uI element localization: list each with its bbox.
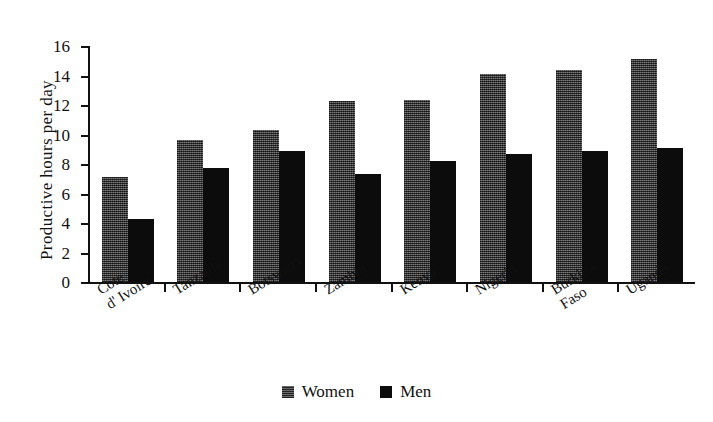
y-tick: 4	[81, 223, 89, 225]
y-tick-label: 2	[62, 244, 71, 261]
y-tick-label: 12	[53, 97, 70, 114]
y-tick-label: 10	[53, 126, 70, 143]
bar-women	[329, 101, 355, 282]
y-tick: 14	[81, 76, 89, 78]
legend-label: Women	[302, 382, 354, 402]
y-tick: 8	[81, 164, 89, 166]
y-tick: 16	[81, 46, 89, 48]
bar-group	[556, 46, 608, 282]
bar-group	[253, 46, 305, 282]
bar-women	[253, 130, 279, 282]
bar-women	[177, 140, 203, 282]
x-axis-category-labels: Coted' IvoireTanzaniaBotswanaZambiaKenya…	[88, 284, 693, 374]
chart-legend: WomenMen	[0, 382, 713, 402]
y-tick: 12	[81, 105, 89, 107]
bar-women	[404, 100, 430, 282]
y-tick-label: 14	[53, 67, 70, 84]
legend-swatch-men	[380, 386, 392, 398]
y-tick-label: 8	[62, 156, 71, 173]
bar-group	[404, 46, 456, 282]
legend-item-men: Men	[380, 382, 431, 402]
y-tick-label: 0	[62, 274, 71, 291]
bar-women	[631, 59, 657, 282]
bar-women	[556, 70, 582, 282]
legend-item-women: Women	[282, 382, 354, 402]
y-tick-label: 4	[62, 215, 71, 232]
y-tick: 6	[81, 194, 89, 196]
bar-chart: Productive hours per day 0246810121416 C…	[0, 0, 713, 422]
bar-group	[329, 46, 381, 282]
y-tick: 2	[81, 253, 89, 255]
bar-women	[480, 74, 506, 282]
bar-group	[177, 46, 229, 282]
legend-swatch-women	[282, 386, 294, 398]
bar-group	[631, 46, 683, 282]
y-tick-label: 16	[53, 38, 70, 55]
y-tick-label: 6	[62, 185, 71, 202]
y-tick: 10	[81, 135, 89, 137]
bar-group	[480, 46, 532, 282]
legend-label: Men	[400, 382, 431, 402]
bar-group	[102, 46, 154, 282]
bar-men	[430, 161, 456, 282]
plot-area: 0246810121416	[88, 46, 693, 282]
